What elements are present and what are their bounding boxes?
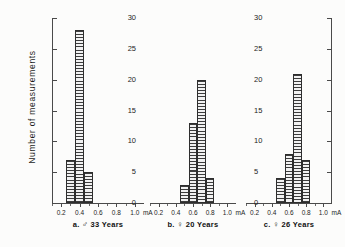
bar-c-0.7 <box>293 74 302 204</box>
y-tick-0 <box>53 203 57 204</box>
y-tick-label-25: 25 <box>254 44 262 53</box>
panel-b-caption-text: 20 Years <box>186 220 219 229</box>
panel-b-caption-prefix: b. <box>167 220 174 229</box>
panel-a-caption-text: 33 Years <box>91 220 124 229</box>
x-tick-0.5 <box>184 204 185 206</box>
panel-c-plot: 0510152025300.20.40.60.81.0mA <box>246 18 332 203</box>
x-tick-0.4 <box>272 204 273 207</box>
y-tick-20 <box>53 80 57 81</box>
bar-c-0.6 <box>285 154 294 203</box>
x-tick-label-0.2: 0.2 <box>154 209 163 216</box>
y-tick-5 <box>327 172 331 173</box>
x-tick-label-0.4: 0.4 <box>267 209 276 216</box>
y-tick-label-25: 25 <box>128 44 136 53</box>
panel-a-caption-prefix: a. <box>73 220 80 229</box>
panel-c: 0510152025300.20.40.60.81.0mA c. ♀ 26 Ye… <box>246 18 332 210</box>
panel-c-caption-symbol: ♀ <box>273 220 279 229</box>
y-tick-label-5: 5 <box>132 167 136 176</box>
x-tick-label-0.8: 0.8 <box>302 209 311 216</box>
x-axis-unit-label: mA <box>143 209 153 216</box>
histogram-figure: Number of measurements 0510152025300.20.… <box>0 0 345 247</box>
panel-a-caption-symbol: ♂ <box>82 220 88 229</box>
x-tick-0.3 <box>70 204 71 206</box>
x-tick-label-1.0: 1.0 <box>130 209 139 216</box>
x-tick-0.3 <box>263 204 264 206</box>
bar-c-0.8 <box>302 160 311 203</box>
bar-c-0.5 <box>276 178 285 203</box>
bar-b-0.6 <box>189 123 198 203</box>
y-tick-10 <box>327 141 331 142</box>
x-tick-0.4 <box>80 204 81 207</box>
x-tick-label-0.2: 0.2 <box>250 209 259 216</box>
x-tick-0.2 <box>159 204 160 207</box>
x-tick-0.5 <box>89 204 90 206</box>
bar-a-0.5 <box>84 172 93 203</box>
x-tick-label-0.4: 0.4 <box>75 209 84 216</box>
x-tick-0.7 <box>298 204 299 206</box>
y-tick-label-20: 20 <box>254 75 262 84</box>
y-tick-0 <box>327 203 331 204</box>
y-axis-title: Number of measurements <box>27 22 37 192</box>
x-tick-0.9 <box>315 204 316 206</box>
x-tick-0.8 <box>306 204 307 207</box>
x-tick-label-0.6: 0.6 <box>284 209 293 216</box>
x-axis-unit-label: mA <box>332 209 342 216</box>
x-tick-label-1.0: 1.0 <box>223 209 232 216</box>
x-tick-0.6 <box>289 204 290 207</box>
bar-a-0.3 <box>66 160 75 203</box>
y-tick-5 <box>53 172 57 173</box>
x-tick-0.6 <box>98 204 99 207</box>
x-tick-0.1 <box>52 204 53 206</box>
x-tick-0.6 <box>193 204 194 207</box>
x-tick-0.2 <box>255 204 256 207</box>
y-tick-label-30: 30 <box>128 13 136 22</box>
x-tick-label-0.8: 0.8 <box>112 209 121 216</box>
x-tick-0.1 <box>246 204 247 206</box>
panel-a-plot: 0510152025300.20.40.60.81.0mA <box>52 18 144 203</box>
x-tick-0.7 <box>202 204 203 206</box>
x-axis-unit-label: mA <box>236 209 246 216</box>
y-tick-label-10: 10 <box>128 136 136 145</box>
x-tick-1.0 <box>135 204 136 207</box>
x-tick-label-0.6: 0.6 <box>188 209 197 216</box>
x-tick-0.3 <box>167 204 168 206</box>
x-tick-0.8 <box>210 204 211 207</box>
y-tick-label-15: 15 <box>254 106 262 115</box>
y-tick-15 <box>53 111 57 112</box>
x-tick-0.9 <box>219 204 220 206</box>
panel-b: 0.20.40.60.81.0mA b. ♀ 20 Years <box>150 18 236 210</box>
y-tick-label-5: 5 <box>254 167 258 176</box>
x-tick-0.7 <box>107 204 108 206</box>
y-tick-10 <box>53 141 57 142</box>
x-tick-label-1.0: 1.0 <box>319 209 328 216</box>
panel-b-caption-symbol: ♀ <box>177 220 183 229</box>
y-tick-label-20: 20 <box>128 75 136 84</box>
y-tick-20 <box>327 80 331 81</box>
panel-c-caption-prefix: c. <box>264 220 271 229</box>
panel-c-caption-text: 26 Years <box>282 220 315 229</box>
x-tick-1.0 <box>227 204 228 207</box>
bar-b-0.8 <box>206 178 215 203</box>
y-tick-label-15: 15 <box>128 106 136 115</box>
x-tick-0.8 <box>116 204 117 207</box>
bar-b-0.7 <box>197 80 206 203</box>
y-tick-label-30: 30 <box>254 13 262 22</box>
y-tick-30 <box>53 18 57 19</box>
bar-a-0.4 <box>75 30 84 203</box>
x-tick-label-0.4: 0.4 <box>171 209 180 216</box>
x-tick-0.9 <box>126 204 127 206</box>
x-tick-0.5 <box>280 204 281 206</box>
x-tick-0.4 <box>176 204 177 207</box>
y-tick-15 <box>327 111 331 112</box>
x-tick-0.2 <box>61 204 62 207</box>
panel-c-caption: c. ♀ 26 Years <box>246 220 332 229</box>
y-tick-25 <box>327 49 331 50</box>
x-tick-label-0.2: 0.2 <box>57 209 66 216</box>
x-tick-0.1 <box>150 204 151 206</box>
panel-c-y-axis <box>331 18 332 203</box>
y-tick-label-10: 10 <box>254 136 262 145</box>
x-tick-label-0.8: 0.8 <box>206 209 215 216</box>
y-tick-30 <box>327 18 331 19</box>
panel-b-caption: b. ♀ 20 Years <box>150 220 236 229</box>
panel-a-caption: a. ♂ 33 Years <box>52 220 144 229</box>
